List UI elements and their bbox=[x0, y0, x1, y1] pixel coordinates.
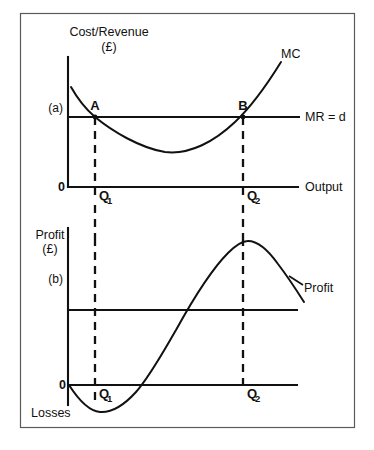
panel-b-y-axis-label-line1: Profit bbox=[35, 228, 65, 242]
point-b-label: B bbox=[238, 98, 247, 113]
panel-b-y-axis-label-line2: (£) bbox=[42, 242, 57, 256]
economics-diagram: Cost/Revenue (£) Output (a) 0 MC MR = d … bbox=[0, 0, 374, 450]
figure-border bbox=[21, 14, 355, 428]
panel-a-x-axis-label: Output bbox=[305, 180, 343, 194]
panel-b-losses-label: Losses bbox=[31, 406, 71, 420]
panel-b-q1-sub: 1 bbox=[107, 393, 113, 404]
figure-root: Cost/Revenue (£) Output (a) 0 MC MR = d … bbox=[0, 0, 374, 450]
panel-b-q2-sub: 2 bbox=[255, 393, 260, 404]
inter-panel-guides bbox=[95, 205, 243, 238]
point-a-label: A bbox=[90, 98, 100, 113]
panel-a: Cost/Revenue (£) Output (a) 0 MC MR = d … bbox=[48, 25, 345, 206]
panel-a-y-axis-label-line1: Cost/Revenue bbox=[69, 25, 148, 39]
point-a-marker bbox=[93, 115, 98, 120]
panel-a-q1-sub: 1 bbox=[107, 195, 113, 206]
panel-a-label: (a) bbox=[48, 101, 63, 115]
point-b-marker bbox=[241, 115, 246, 120]
panel-b: Profit (£) (b) 0 Losses Profit Q 1 Q 2 bbox=[31, 228, 334, 420]
profit-curve-label: Profit bbox=[304, 281, 334, 295]
panel-a-q2-sub: 2 bbox=[255, 195, 260, 206]
marginal-cost-label: MC bbox=[281, 47, 300, 61]
panel-b-label: (b) bbox=[48, 272, 63, 286]
marginal-cost-curve bbox=[71, 62, 281, 152]
panel-b-origin-label: 0 bbox=[59, 378, 66, 392]
panel-a-y-axis-label-line2: (£) bbox=[101, 40, 116, 54]
marginal-revenue-label: MR = d bbox=[305, 110, 346, 124]
panel-a-origin-label: 0 bbox=[58, 180, 65, 194]
